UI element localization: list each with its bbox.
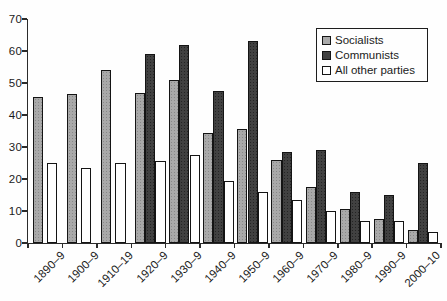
y-axis-tick bbox=[22, 178, 27, 180]
legend-label-all-other-parties: All other parties bbox=[335, 63, 415, 77]
communists-swatch-icon bbox=[322, 51, 331, 60]
bar-communists-1990-9 bbox=[384, 195, 394, 243]
x-tick-label: 1970–9 bbox=[304, 249, 340, 285]
socialists-swatch-icon bbox=[322, 36, 331, 45]
y-axis-tick bbox=[22, 242, 27, 244]
bar-all-other-parties-1920-9 bbox=[155, 161, 165, 243]
bar-all-other-parties-1890-9 bbox=[47, 163, 57, 243]
bar-socialists-1890-9 bbox=[33, 97, 43, 243]
all-other-parties-swatch-icon bbox=[322, 66, 331, 75]
bar-all-other-parties-1930-9 bbox=[190, 155, 200, 243]
legend-label-communists: Communists bbox=[335, 48, 399, 62]
y-axis-tick bbox=[22, 82, 27, 84]
x-axis-tick bbox=[27, 243, 29, 248]
x-axis-tick bbox=[165, 243, 167, 248]
bar-all-other-parties-2000-10 bbox=[428, 232, 438, 243]
bar-all-other-parties-1900-9 bbox=[81, 168, 91, 243]
bar-all-other-parties-1960-9 bbox=[292, 200, 302, 243]
x-axis-tick bbox=[62, 243, 64, 248]
y-axis-tick bbox=[22, 18, 27, 20]
bar-socialists-1960-9 bbox=[271, 160, 281, 243]
bar-socialists-1950-9 bbox=[237, 129, 247, 243]
x-tick-label: 1910–19 bbox=[95, 249, 135, 289]
bar-all-other-parties-1970-9 bbox=[326, 211, 336, 243]
bar-socialists-1910-19 bbox=[101, 70, 111, 243]
legend: Socialists Communists All other parties bbox=[316, 28, 428, 82]
bar-communists-1930-9 bbox=[179, 45, 189, 243]
y-axis-tick bbox=[22, 146, 27, 148]
y-tick-label: 30 bbox=[1, 141, 22, 154]
legend-item-communists: Communists bbox=[322, 48, 421, 62]
bar-socialists-1980-9 bbox=[340, 209, 350, 243]
x-tick-label: 1890–9 bbox=[32, 249, 68, 285]
y-tick-label: 70 bbox=[1, 13, 22, 26]
bar-socialists-1920-9 bbox=[135, 93, 145, 243]
x-axis-tick bbox=[371, 243, 373, 248]
x-axis-tick bbox=[234, 243, 236, 248]
legend-label-socialists: Socialists bbox=[335, 33, 384, 47]
bar-communists-1950-9 bbox=[248, 41, 258, 243]
x-tick-label: 1920–9 bbox=[134, 249, 170, 285]
bar-communists-1980-9 bbox=[350, 192, 360, 243]
y-axis-tick bbox=[22, 114, 27, 116]
legend-item-socialists: Socialists bbox=[322, 33, 421, 47]
x-axis-tick bbox=[303, 243, 305, 248]
x-axis-tick bbox=[199, 243, 201, 248]
x-tick-label: 1930–9 bbox=[168, 249, 204, 285]
y-axis-tick bbox=[22, 210, 27, 212]
y-tick-label: 20 bbox=[1, 173, 22, 186]
y-tick-label: 40 bbox=[1, 109, 22, 122]
bar-socialists-1940-9 bbox=[203, 133, 213, 243]
bar-all-other-parties-1950-9 bbox=[258, 192, 268, 243]
x-tick-label: 1950–9 bbox=[236, 249, 272, 285]
bar-socialists-1930-9 bbox=[169, 80, 179, 243]
y-tick-label: 50 bbox=[1, 77, 22, 90]
bar-communists-1920-9 bbox=[145, 54, 155, 243]
bar-communists-1940-9 bbox=[213, 91, 223, 243]
x-axis-tick bbox=[268, 243, 270, 248]
bar-communists-1970-9 bbox=[316, 150, 326, 243]
x-axis-tick bbox=[131, 243, 133, 248]
bar-socialists-2000-10 bbox=[408, 230, 418, 243]
legend-item-all-other-parties: All other parties bbox=[322, 63, 421, 77]
x-tick-label: 1940–9 bbox=[202, 249, 238, 285]
bar-all-other-parties-1910-19 bbox=[115, 163, 125, 243]
x-axis-tick bbox=[337, 243, 339, 248]
x-axis-tick bbox=[440, 243, 442, 248]
bar-all-other-parties-1940-9 bbox=[224, 181, 234, 243]
y-tick-label: 10 bbox=[1, 205, 22, 218]
x-axis-tick bbox=[406, 243, 408, 248]
bar-socialists-1990-9 bbox=[374, 219, 384, 243]
x-axis-tick bbox=[96, 243, 98, 248]
bar-all-other-parties-1990-9 bbox=[394, 221, 404, 243]
bar-socialists-1970-9 bbox=[306, 187, 316, 243]
bar-communists-1960-9 bbox=[282, 152, 292, 243]
y-tick-label: 0 bbox=[1, 237, 22, 250]
y-tick-label: 60 bbox=[1, 45, 22, 58]
y-axis-tick bbox=[22, 50, 27, 52]
bar-socialists-1900-9 bbox=[67, 94, 77, 243]
x-tick-label: 1960–9 bbox=[270, 249, 306, 285]
x-tick-label: 1980–9 bbox=[338, 249, 374, 285]
x-tick-label: 2000–10 bbox=[402, 249, 442, 289]
bar-chart-figure: Socialists Communists All other parties … bbox=[0, 0, 447, 301]
bar-all-other-parties-1980-9 bbox=[360, 221, 370, 243]
bar-communists-2000-10 bbox=[418, 163, 428, 243]
